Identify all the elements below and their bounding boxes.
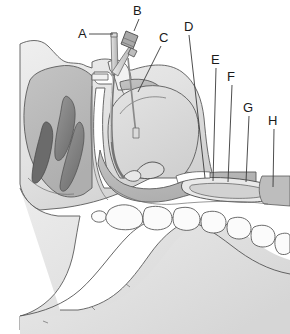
vertebra-c5	[227, 217, 251, 239]
nasal-cavity-group	[24, 65, 92, 197]
oral-probe-tip	[133, 128, 139, 138]
leader-line-f	[228, 85, 232, 182]
label-g: G	[243, 100, 253, 115]
leader-line-b	[134, 19, 139, 31]
vertebra-c3	[173, 207, 200, 230]
label-e: E	[211, 52, 220, 67]
label-a: A	[78, 26, 87, 41]
vertebra-c2	[143, 206, 172, 230]
label-d: D	[184, 19, 193, 34]
anatomical-figure: A B C D E F G H	[0, 0, 290, 334]
vertebra-c6	[251, 225, 275, 247]
sagittal-head-neck-diagram: A B C D E F G H	[0, 0, 290, 334]
hard-palate-bone	[92, 74, 108, 80]
vertebra-c7	[275, 233, 290, 254]
label-f: F	[227, 69, 235, 84]
label-h: H	[268, 113, 277, 128]
vertebra-c4	[201, 211, 226, 233]
vertebra-c1	[106, 205, 143, 230]
label-c: C	[159, 30, 168, 45]
leader-line-e	[213, 68, 216, 181]
vertebra-odontoid	[92, 211, 107, 222]
esophagus-lower-band	[259, 176, 290, 206]
label-b: B	[133, 3, 142, 18]
